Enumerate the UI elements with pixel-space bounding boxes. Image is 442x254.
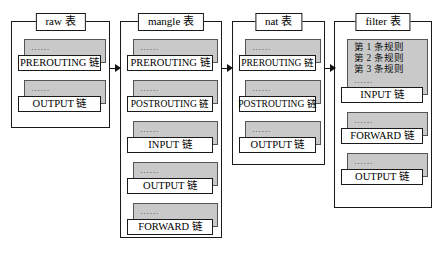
chain-nat-postrouting: …… POSTROUTING 链 bbox=[239, 80, 321, 112]
chain-ellipsis: …… bbox=[31, 43, 50, 52]
rule-list: 第 1 条规则 第 2 条规则 第 3 条规则 …… bbox=[354, 42, 424, 85]
rule-item: 第 3 条规则 bbox=[354, 64, 424, 75]
arrow-head bbox=[115, 64, 121, 72]
chain-ellipsis: …… bbox=[354, 75, 424, 85]
chain-filter-output: …… OUTPUT 链 bbox=[341, 153, 428, 185]
arrow-raw-to-mangle bbox=[110, 64, 121, 73]
chain-ellipsis: …… bbox=[140, 207, 159, 216]
chain-label: OUTPUT 链 bbox=[341, 169, 423, 185]
chain-mangle-prerouting: …… PREROUTING 链 bbox=[127, 39, 218, 71]
chain-ellipsis: …… bbox=[252, 125, 271, 134]
chain-ellipsis: …… bbox=[140, 84, 159, 93]
table-title-mangle: mangle 表 bbox=[138, 13, 204, 31]
chain-raw-prerouting: …… PREROUTING 链 bbox=[18, 39, 106, 71]
table-box-raw: raw 表 …… PREROUTING 链 …… OUTPUT 链 bbox=[11, 21, 110, 128]
chain-ellipsis: …… bbox=[354, 116, 373, 125]
chain-label: OUTPUT 链 bbox=[18, 96, 101, 112]
chain-label: INPUT 链 bbox=[127, 137, 213, 153]
table-box-filter: filter 表 第 1 条规则 第 2 条规则 第 3 条规则 …… INPU… bbox=[334, 21, 432, 208]
table-box-mangle: mangle 表 …… PREROUTING 链 …… POSTROUTING … bbox=[120, 21, 222, 238]
chain-label: PREROUTING 链 bbox=[18, 55, 101, 71]
chain-label: PREROUTING 链 bbox=[127, 55, 213, 71]
chain-ellipsis: …… bbox=[252, 84, 271, 93]
chain-label: FORWARD 链 bbox=[127, 219, 213, 235]
chain-ellipsis: …… bbox=[140, 43, 159, 52]
chain-mangle-forward: …… FORWARD 链 bbox=[127, 203, 218, 235]
chain-ellipsis: …… bbox=[140, 166, 159, 175]
table-title-filter: filter 表 bbox=[355, 13, 410, 31]
chain-ellipsis: …… bbox=[252, 43, 271, 52]
chain-mangle-output: …… OUTPUT 链 bbox=[127, 162, 218, 194]
chain-label: OUTPUT 链 bbox=[127, 178, 213, 194]
diagram-canvas: raw 表 …… PREROUTING 链 …… OUTPUT 链 mangle… bbox=[0, 0, 442, 254]
chain-mangle-input: …… INPUT 链 bbox=[127, 121, 218, 153]
chain-ellipsis: …… bbox=[31, 84, 50, 93]
arrow-mangle-to-nat bbox=[222, 64, 233, 73]
chain-ellipsis: …… bbox=[354, 157, 373, 166]
chain-filter-forward: …… FORWARD 链 bbox=[341, 112, 428, 144]
chain-filter-input: 第 1 条规则 第 2 条规则 第 3 条规则 …… INPUT 链 bbox=[341, 39, 428, 103]
chain-nat-prerouting: …… PREROUTING 链 bbox=[239, 39, 321, 71]
arrow-head bbox=[227, 64, 233, 72]
chain-mangle-postrouting: …… POSTROUTING 链 bbox=[127, 80, 218, 112]
table-box-nat: nat 表 …… PREROUTING 链 …… POSTROUTING 链 …… bbox=[232, 21, 325, 165]
chain-label: POSTROUTING 链 bbox=[239, 96, 316, 112]
chain-label: INPUT 链 bbox=[341, 87, 423, 103]
arrow-nat-to-filter bbox=[325, 64, 336, 73]
chain-nat-output: …… OUTPUT 链 bbox=[239, 121, 321, 153]
rule-item: 第 2 条规则 bbox=[354, 53, 424, 64]
chain-raw-output: …… OUTPUT 链 bbox=[18, 80, 106, 112]
chain-label: PREROUTING 链 bbox=[239, 55, 316, 71]
table-title-raw: raw 表 bbox=[35, 13, 85, 31]
chain-label: OUTPUT 链 bbox=[239, 137, 316, 153]
chain-ellipsis: …… bbox=[140, 125, 159, 134]
arrow-head bbox=[330, 64, 336, 72]
chain-label: POSTROUTING 链 bbox=[127, 96, 213, 112]
rule-item: 第 1 条规则 bbox=[354, 42, 424, 53]
chain-label: FORWARD 链 bbox=[341, 128, 423, 144]
table-title-nat: nat 表 bbox=[255, 13, 302, 31]
